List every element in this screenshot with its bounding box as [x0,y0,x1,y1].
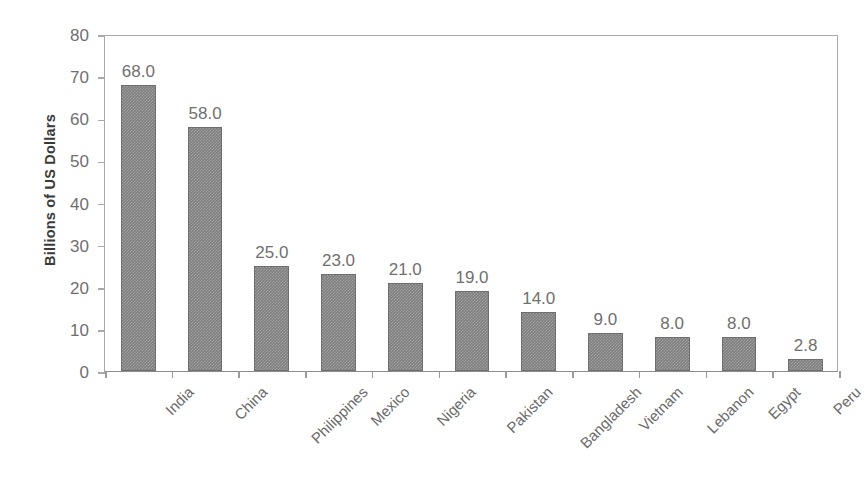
y-tick-label: 20 [27,280,89,298]
x-tick-mark [639,371,641,378]
bar[interactable] [188,127,223,371]
bar-value-label: 9.0 [572,311,639,329]
y-tick-label: 50 [27,153,89,171]
bar[interactable] [121,85,156,371]
x-tick-mark [706,371,708,378]
y-tick-label: 40 [27,196,89,214]
x-tick-mark [105,371,107,378]
x-tick-mark [772,371,774,378]
y-tick-mark [98,372,105,374]
bar[interactable] [321,274,356,371]
bar-value-label: 25.0 [238,244,305,262]
y-tick-mark [98,35,105,37]
x-axis-category-label: Peru [830,384,864,418]
x-axis-category-label: Mexico [367,384,412,429]
x-axis-category-label: India [163,384,197,418]
y-tick-label: 60 [27,111,89,129]
y-tick-label: 0 [27,364,89,382]
x-tick-mark [839,371,841,378]
y-tick-label: 80 [27,27,89,45]
bar-value-label: 14.0 [505,290,572,308]
y-axis-title: Billions of US Dollars [42,70,58,310]
bar[interactable] [521,312,556,371]
x-tick-mark [572,371,574,378]
bar-value-label: 68.0 [105,63,172,81]
bar-value-label: 8.0 [639,315,706,333]
y-tick-mark [98,246,105,248]
bar[interactable] [722,337,757,371]
y-tick-label: 70 [27,69,89,87]
x-tick-mark [305,371,307,378]
bar[interactable] [388,283,423,371]
bar[interactable] [788,359,823,371]
x-axis-category-label: Egypt [765,384,803,422]
y-tick-label: 10 [27,322,89,340]
bar-value-label: 21.0 [372,261,439,279]
bar[interactable] [588,333,623,371]
y-tick-mark [98,288,105,290]
x-axis-category-label: Philippines [308,384,371,447]
bar-value-label: 2.8 [772,337,839,355]
x-axis-category-label: Lebanon [704,384,757,437]
y-tick-label: 30 [27,238,89,256]
y-tick-mark [98,120,105,122]
x-tick-mark [238,371,240,378]
bar[interactable] [455,291,490,371]
bar-value-label: 58.0 [172,105,239,123]
x-tick-mark [172,371,174,378]
x-axis-category-label: Bangladesh [577,384,644,451]
y-tick-mark [98,77,105,79]
x-tick-mark [439,371,441,378]
x-tick-mark [505,371,507,378]
bar-value-label: 23.0 [305,252,372,270]
bar-chart: Billions of US Dollars 80706050403020100… [0,0,867,498]
bar[interactable] [655,337,690,371]
y-tick-mark [98,330,105,332]
x-axis-category-label: Pakistan [504,384,556,436]
bar[interactable] [254,266,289,371]
bar-value-label: 19.0 [439,269,506,287]
plot-area: 80706050403020100 68.058.025.023.021.019… [104,35,838,372]
y-tick-mark [98,204,105,206]
x-tick-mark [372,371,374,378]
x-axis-category-label: Vietnam [636,384,686,434]
y-tick-mark [98,162,105,164]
x-axis-category-label: Nigeria [434,384,479,429]
bar-value-label: 8.0 [706,315,773,333]
x-axis-category-label: China [232,384,271,423]
